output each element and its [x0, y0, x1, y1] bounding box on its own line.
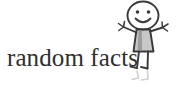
stick-figure-illustration [112, 0, 177, 85]
random-facts-logo: random facts [0, 0, 177, 85]
left-leg [137, 52, 139, 69]
right-foot [141, 67, 148, 69]
reflection [132, 71, 148, 80]
left-foot [131, 67, 138, 69]
smile [136, 19, 151, 23]
right-hand [162, 22, 168, 31]
left-hand [119, 22, 125, 31]
head-circle [128, 2, 159, 30]
right-leg [148, 52, 149, 69]
left-eye [136, 10, 140, 14]
right-eye [147, 10, 151, 14]
